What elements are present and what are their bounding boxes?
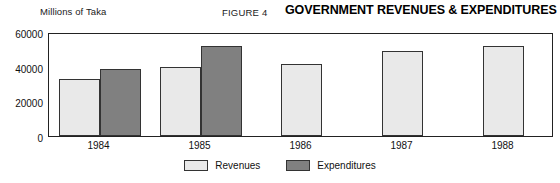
legend-item-revenues: Revenues [184, 160, 260, 171]
y-axis-tick-label: 0 [37, 133, 49, 144]
bar-revenues-1984 [59, 79, 100, 136]
y-axis-tick-label: 40000 [15, 63, 49, 74]
x-axis-tick-label-1986: 1986 [289, 140, 311, 151]
bar-revenues-1985 [160, 67, 201, 136]
x-axis-tick-label-1988: 1988 [491, 140, 513, 151]
x-axis-tick-label-1987: 1987 [390, 140, 412, 151]
bar-revenues-1986 [281, 64, 322, 136]
figure-number-label: FIGURE 4 [222, 7, 267, 18]
plot-inner: 0200004000060000 [49, 34, 552, 136]
y-axis-tick-label: 20000 [15, 98, 49, 109]
x-axis-tick-label-1984: 1984 [87, 140, 109, 151]
legend-swatch-expenditures [286, 160, 310, 171]
bar-expenditures-1984 [100, 69, 141, 136]
bar-revenues-1987 [382, 51, 423, 136]
figure-title: GOVERNMENT REVENUES & EXPENDITURES [285, 3, 557, 17]
legend-item-expenditures: Expenditures [286, 160, 375, 171]
figure-container: Millions of Taka FIGURE 4 GOVERNMENT REV… [0, 0, 560, 183]
x-axis-tick-label-1985: 1985 [188, 140, 210, 151]
plot-area: 0200004000060000 [48, 33, 553, 137]
y-axis-unit-label: Millions of Taka [40, 6, 106, 17]
bar-revenues-1988 [483, 46, 524, 136]
legend-label-revenues: Revenues [215, 160, 260, 171]
legend-label-expenditures: Expenditures [317, 160, 375, 171]
y-axis-tick-label: 60000 [15, 29, 49, 40]
bar-expenditures-1985 [201, 46, 242, 136]
chart-legend: RevenuesExpenditures [0, 160, 560, 171]
legend-swatch-revenues [184, 160, 208, 171]
